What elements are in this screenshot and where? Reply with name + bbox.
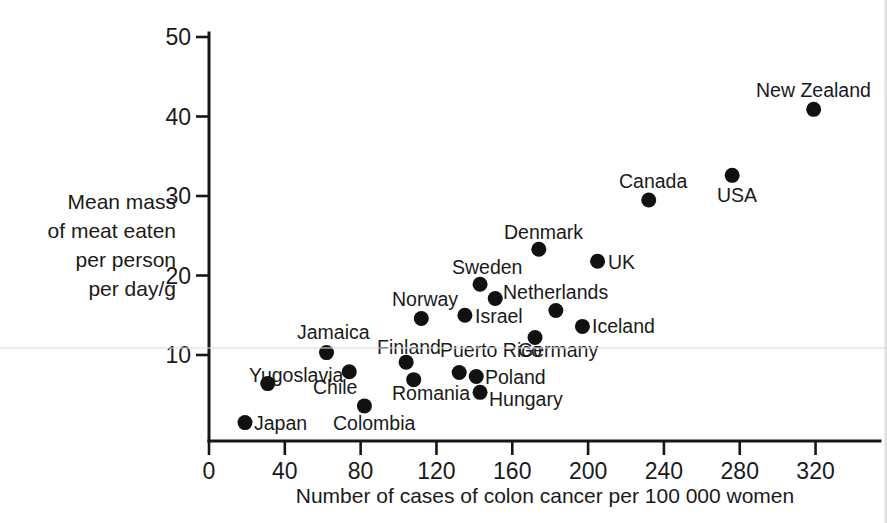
data-point-label: Sweden	[452, 256, 522, 278]
data-point[interactable]	[590, 254, 605, 269]
data-point[interactable]	[319, 345, 334, 360]
data-point-label: Colombia	[333, 412, 416, 434]
plot-canvas: 1020304050 04080120160200240280320 Japan…	[0, 0, 887, 523]
data-point-label: New Zealand	[756, 79, 871, 101]
x-tick-label: 240	[645, 458, 683, 484]
x-tick-label: 0	[203, 458, 216, 484]
data-point-label: Jamaica	[297, 321, 370, 343]
data-point-label: Germany	[518, 339, 598, 361]
data-point-label: Iceland	[592, 315, 655, 337]
data-point-label: UK	[608, 251, 635, 273]
data-point[interactable]	[469, 369, 484, 384]
data-point-label: Poland	[485, 366, 546, 388]
y-axis-title-line: per person	[76, 248, 176, 271]
data-point-label: Norway	[392, 288, 458, 310]
x-tick-label: 320	[796, 458, 834, 484]
scatter-plot-figure: 1020304050 04080120160200240280320 Japan…	[0, 0, 887, 523]
data-point-label: Japan	[254, 412, 307, 434]
point-labels-group: JapanColombiaHungaryYugoslaviaRomaniaPol…	[249, 79, 871, 434]
data-point-label: Hungary	[489, 388, 563, 410]
x-tick-label: 160	[493, 458, 531, 484]
data-point-label: Chile	[313, 376, 357, 398]
x-tick-label: 80	[348, 458, 374, 484]
y-tick-label: 10	[165, 342, 191, 368]
data-point[interactable]	[473, 277, 488, 292]
data-point-label: Netherlands	[503, 281, 608, 303]
data-point[interactable]	[457, 308, 472, 323]
data-point[interactable]	[488, 291, 503, 306]
y-axis-title: Mean massof meat eatenper personper day/…	[48, 190, 176, 300]
y-axis-title-line: of meat eaten	[48, 219, 176, 242]
data-point-label: Israel	[475, 305, 523, 327]
x-axis-title: Number of cases of colon cancer per 100 …	[296, 484, 794, 507]
data-point[interactable]	[575, 319, 590, 334]
y-axis-title-line: per day/g	[88, 277, 176, 300]
data-point[interactable]	[452, 365, 467, 380]
data-point-label: Finland	[377, 336, 441, 358]
y-axis-title-line: Mean mass	[67, 190, 176, 213]
data-point-label: Romania	[392, 382, 470, 404]
x-tick-label: 280	[721, 458, 759, 484]
data-point-label: Denmark	[504, 221, 583, 243]
data-point[interactable]	[238, 415, 253, 430]
data-point[interactable]	[531, 242, 546, 257]
data-point[interactable]	[725, 168, 740, 183]
x-tick-label: 120	[417, 458, 455, 484]
data-point[interactable]	[548, 303, 563, 318]
data-point-label: USA	[717, 184, 757, 206]
y-tick-label: 50	[165, 24, 191, 50]
data-point[interactable]	[641, 192, 656, 207]
x-tick-label: 200	[569, 458, 607, 484]
y-tick-label: 40	[165, 104, 191, 130]
data-point-label: Canada	[619, 170, 687, 192]
data-point[interactable]	[414, 311, 429, 326]
data-point[interactable]	[806, 102, 821, 117]
x-tick-label: 40	[272, 458, 298, 484]
x-tick-group: 04080120160200240280320	[203, 441, 835, 484]
